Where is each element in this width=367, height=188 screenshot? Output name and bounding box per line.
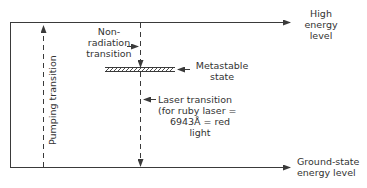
label-line: 6943Å = red bbox=[158, 116, 242, 127]
metastable-state-bar bbox=[105, 68, 175, 72]
label-line: transition bbox=[84, 48, 134, 59]
label-line: Non- bbox=[84, 26, 134, 37]
metastable-state-label: Metastable state bbox=[193, 60, 251, 82]
label-line: level bbox=[296, 30, 346, 41]
ground-state-label: Ground-state energy level bbox=[297, 156, 359, 178]
label-line: (for ruby laser = bbox=[158, 105, 242, 116]
high-energy-level-label: High energy level bbox=[296, 8, 346, 41]
label-line: Metastable bbox=[193, 60, 251, 71]
label-line: energy bbox=[296, 19, 346, 30]
label-line: state bbox=[193, 71, 251, 82]
label-line: energy level bbox=[297, 167, 359, 178]
label-line: Ground-state bbox=[297, 156, 359, 167]
pumping-transition-label: Pumping transition bbox=[47, 55, 58, 145]
label-line: High bbox=[296, 8, 346, 19]
laser-transition-label: Laser transition (for ruby laser = 6943Å… bbox=[158, 94, 242, 138]
label-line: Laser transition bbox=[158, 94, 242, 105]
non-radiation-transition-label: Non- radiation transition bbox=[84, 26, 134, 59]
label-line: light bbox=[158, 127, 242, 138]
label-line: radiation bbox=[84, 37, 134, 48]
